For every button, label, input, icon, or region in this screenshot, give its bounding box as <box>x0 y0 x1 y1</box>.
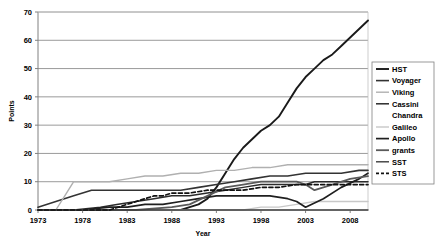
legend-label-hst: HST <box>392 65 407 74</box>
x-tick-label-2003: 2003 <box>297 216 314 225</box>
x-tick-label-1988: 1988 <box>163 216 180 225</box>
legend-label-grants: grants <box>392 146 415 155</box>
x-tick-label-1973: 1973 <box>30 216 47 225</box>
y-tick-label-40: 40 <box>24 93 32 102</box>
y-axis-title: Points <box>8 100 15 121</box>
x-tick-label-1993: 1993 <box>208 216 225 225</box>
x-axis-title: Year <box>196 230 211 237</box>
line-chart: 0102030405060701973197819831988199319982… <box>0 0 436 247</box>
y-tick-label-70: 70 <box>24 8 32 17</box>
chart-canvas: 0102030405060701973197819831988199319982… <box>0 0 436 247</box>
x-tick-label-1983: 1983 <box>119 216 136 225</box>
x-tick-label-1978: 1978 <box>74 216 91 225</box>
x-tick-label-1998: 1998 <box>253 216 270 225</box>
legend-label-apollo: Apollo <box>392 134 416 143</box>
y-tick-label-30: 30 <box>24 121 32 130</box>
legend-label-chandra: Chandra <box>392 111 423 120</box>
legend-label-sst: SST <box>392 158 407 167</box>
x-tick-label-2008: 2008 <box>342 216 359 225</box>
y-tick-label-10: 10 <box>24 177 32 186</box>
legend-label-galileo: Galileo <box>392 123 417 132</box>
legend-label-cassini: Cassini <box>392 100 419 109</box>
legend-label-voyager: Voyager <box>392 76 421 85</box>
y-tick-label-0: 0 <box>28 206 32 215</box>
y-tick-label-60: 60 <box>24 36 32 45</box>
legend-label-viking: Viking <box>392 88 415 97</box>
y-tick-label-50: 50 <box>24 64 32 73</box>
y-tick-label-20: 20 <box>24 149 32 158</box>
plot-area <box>38 12 368 210</box>
legend-label-sts: STS <box>392 169 407 178</box>
